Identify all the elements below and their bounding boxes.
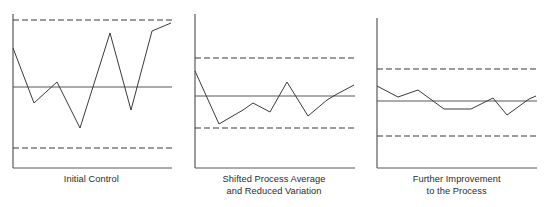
plot-area-initial-control [0,0,183,175]
data-series-line [13,23,171,128]
chart-svg-shifted-process-average [183,0,366,175]
caption-line: Shifted Process Average [183,173,366,185]
chart-svg-initial-control [0,0,183,175]
plot-area-further-improvement [365,0,548,175]
chart-caption-further-improvement: Further Improvement to the Process [365,173,548,197]
data-series-line [195,71,354,124]
caption-line: and Reduced Variation [183,185,366,197]
chart-panel-initial-control: Initial Control [0,0,183,207]
chart-panel-shifted-process-average: Shifted Process Average and Reduced Vari… [183,0,366,207]
chart-svg-further-improvement [365,0,548,175]
chart-caption-shifted-process-average: Shifted Process Average and Reduced Vari… [183,173,366,197]
chart-caption-initial-control: Initial Control [0,173,183,185]
caption-line: to the Process [365,185,548,197]
chart-panel-further-improvement: Further Improvement to the Process [365,0,548,207]
plot-area-shifted-process-average [183,0,366,175]
caption-line: Initial Control [0,173,183,185]
caption-line: Further Improvement [365,173,548,185]
spc-chart-figure: Initial Control Shifted Process Average … [0,0,548,207]
